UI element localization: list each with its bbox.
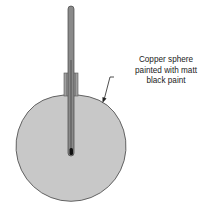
thermometer (68, 6, 74, 156)
copper-sphere-thermometer-diagram (0, 0, 211, 216)
label-line-1: Copper sphere (122, 55, 210, 66)
label-line-2: painted with matt (122, 66, 210, 77)
copper-sphere-label: Copper sphere painted with matt black pa… (122, 55, 210, 87)
label-line-3: black paint (122, 76, 210, 87)
label-leader-arrow (103, 77, 115, 103)
thermometer-bulb (70, 148, 74, 155)
